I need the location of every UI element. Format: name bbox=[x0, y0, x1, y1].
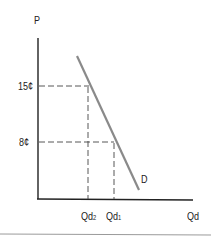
tick-label-15c: 15¢ bbox=[18, 81, 33, 92]
curve-label-d: D bbox=[141, 174, 148, 185]
qd2-main: Qd bbox=[81, 210, 93, 222]
qd1-main: Qd bbox=[106, 210, 118, 222]
qd1-subscript: 1 bbox=[118, 214, 121, 221]
chart-canvas bbox=[0, 0, 211, 238]
demand-curve bbox=[77, 56, 139, 190]
tick-label-8c: 8¢ bbox=[19, 137, 29, 148]
x-axis bbox=[37, 199, 193, 200]
bottom-rule bbox=[0, 234, 211, 235]
x-axis-label: Qd bbox=[187, 211, 199, 222]
y-axis-label: P bbox=[34, 15, 40, 26]
tick-label-qd2: Qd2 bbox=[81, 211, 96, 223]
tick-label-qd1: Qd1 bbox=[106, 211, 121, 223]
qd2-subscript: 2 bbox=[93, 214, 96, 221]
